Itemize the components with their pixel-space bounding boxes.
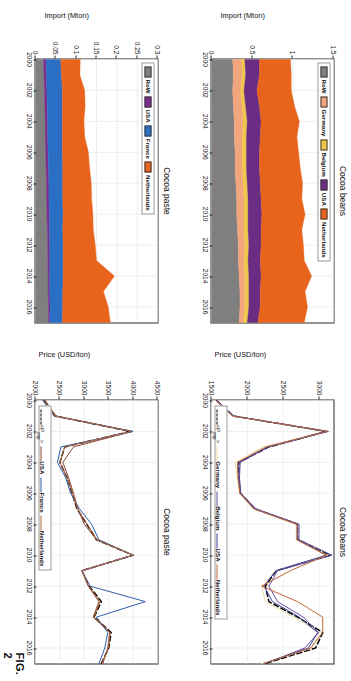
- panel-cocoa-paste-import: Cocoa paste Import (Mton) 00.050.10.150.…: [0, 0, 175, 340]
- x-tick-label: 2006: [201, 485, 208, 500]
- x-tick-label: 2008: [201, 516, 208, 531]
- x-tick-label: 2002: [201, 424, 208, 439]
- legend-line-swatch: [217, 409, 218, 424]
- legend-item[interactable]: Netherlands: [36, 515, 54, 566]
- y-tick-mark: [95, 55, 96, 58]
- legend-label: Netherlands: [215, 579, 222, 615]
- legend-item[interactable]: USA: [144, 96, 151, 122]
- legend-item[interactable]: Netherlands: [212, 564, 230, 615]
- y-tick-label: 0.15: [93, 28, 100, 54]
- x-tick-mark: [209, 90, 212, 91]
- legend-item[interactable]: France: [36, 477, 54, 512]
- x-tick-mark: [33, 90, 36, 91]
- y-tick-label: 1.5: [330, 28, 337, 54]
- x-tick-label: 2012: [25, 578, 32, 593]
- legend-item[interactable]: Germany: [212, 446, 230, 488]
- area-chart-svg: [35, 59, 157, 322]
- y-tick-label: 3500: [105, 369, 112, 395]
- legend-item[interactable]: USA: [320, 179, 327, 205]
- y-tick-label: 0.2: [113, 28, 120, 54]
- x-tick-label: 2000: [201, 393, 208, 408]
- x-tick-label: 2006: [201, 144, 208, 159]
- legend-item[interactable]: <Pexp>: [212, 409, 230, 443]
- legend-label: France: [144, 138, 151, 158]
- x-tick-label: 2004: [201, 114, 208, 129]
- legend-item[interactable]: USA: [36, 446, 54, 474]
- x-tick-mark: [33, 121, 36, 122]
- legend-cocoa-paste-price[interactable]: <Pexp>USAFranceNetherlands: [38, 405, 51, 570]
- legend-label: Germany: [320, 109, 327, 136]
- legend-item[interactable]: <Pexp>: [36, 409, 54, 443]
- legend-item[interactable]: Belgium: [320, 139, 327, 176]
- legend-item[interactable]: USA: [212, 533, 230, 561]
- y-tick-label: 0.1: [72, 28, 79, 54]
- x-tick-mark: [209, 121, 212, 122]
- y-tick-mark: [34, 55, 35, 58]
- legend-line-swatch: [41, 409, 42, 424]
- x-tick-mark: [33, 152, 36, 153]
- legend-label: RoW: [320, 79, 327, 93]
- legend-item[interactable]: RoW: [144, 66, 151, 93]
- y-tick-label: 4000: [129, 369, 136, 395]
- legend-swatch: [144, 96, 151, 107]
- x-tick-label: 2004: [25, 114, 32, 129]
- y-tick-label: 0.05: [52, 28, 59, 54]
- legend-swatch: [320, 96, 327, 107]
- x-tick-mark: [209, 276, 212, 277]
- y-tick-label: 3000: [315, 369, 322, 395]
- x-tick-mark: [33, 276, 36, 277]
- y-axis-label: Price (USD/ton): [214, 349, 266, 358]
- legend-cocoa-beans-import[interactable]: RoWGermanyBelgiumUSANetherlands: [317, 62, 330, 261]
- x-tick-label: 2016: [201, 640, 208, 655]
- y-tick-mark: [332, 55, 333, 58]
- panel-title: Cocoa beans: [337, 399, 347, 664]
- x-tick-mark: [209, 59, 212, 60]
- y-tick-label: 0.5: [248, 28, 255, 54]
- y-tick-label: 2000: [32, 369, 39, 395]
- y-tick-label: 1: [289, 28, 296, 54]
- y-tick-mark: [210, 55, 211, 58]
- legend-item[interactable]: France: [144, 125, 151, 158]
- legend-item[interactable]: RoW: [320, 66, 327, 93]
- x-tick-mark: [33, 245, 36, 246]
- legend-label: <Pexp>: [215, 424, 222, 443]
- y-tick-mark: [156, 396, 157, 399]
- legend-label: USA: [144, 109, 151, 122]
- legend-line-swatch: [217, 446, 218, 461]
- y-tick-label: 4500: [154, 369, 161, 395]
- x-tick-label: 2012: [201, 237, 208, 252]
- panel-cocoa-paste-price: Cocoa paste Price (USD/ton) 200025003000…: [0, 341, 175, 681]
- x-tick-mark: [33, 59, 36, 60]
- legend-label: Netherlands: [39, 530, 46, 566]
- legend-cocoa-paste-import[interactable]: RoWUSAFranceNetherlands: [141, 62, 154, 214]
- y-tick-mark: [156, 55, 157, 58]
- x-tick-label: 2000: [25, 52, 32, 67]
- x-tick-label: 2006: [25, 144, 32, 159]
- legend-item[interactable]: Belgium: [212, 491, 230, 530]
- legend-label: Belgium: [215, 506, 222, 530]
- y-tick-mark: [34, 396, 35, 399]
- legend-line-swatch: [217, 491, 218, 506]
- legend-item[interactable]: Netherlands: [320, 208, 327, 257]
- panel-cocoa-beans-price: Cocoa beans Price (USD/ton) 150020002500…: [176, 341, 351, 681]
- legend-item[interactable]: Netherlands: [144, 161, 151, 210]
- y-tick-mark: [132, 396, 133, 399]
- x-tick-label: 2000: [201, 52, 208, 67]
- legend-label: Belgium: [320, 152, 327, 176]
- plot-area: [210, 58, 334, 323]
- legend-swatch: [144, 66, 151, 77]
- legend-label: RoW: [144, 79, 151, 93]
- legend-swatch: [320, 66, 327, 77]
- x-tick-mark: [33, 648, 36, 649]
- legend-label: USA: [39, 461, 46, 474]
- x-tick-mark: [33, 307, 36, 308]
- x-tick-label: 2016: [25, 640, 32, 655]
- legend-item[interactable]: Germany: [320, 96, 327, 136]
- x-tick-mark: [209, 183, 212, 184]
- legend-cocoa-beans-price[interactable]: <Pexp>GermanyBelgiumUSANetherlands: [214, 405, 227, 619]
- x-tick-mark: [209, 245, 212, 246]
- x-tick-label: 2010: [25, 206, 32, 221]
- y-axis-label: Import (Mton): [44, 10, 88, 19]
- y-tick-mark: [58, 396, 59, 399]
- x-tick-mark: [33, 214, 36, 215]
